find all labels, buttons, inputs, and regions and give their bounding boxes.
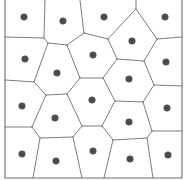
site-point — [53, 158, 60, 165]
voronoi-edge — [144, 61, 154, 85]
voronoi-edge — [108, 39, 117, 59]
site-point — [164, 105, 171, 112]
voronoi-edge — [67, 45, 80, 78]
site-point — [54, 70, 61, 77]
site-point — [127, 156, 134, 163]
voronoi-sites — [19, 14, 172, 165]
voronoi-edge — [117, 59, 144, 61]
voronoi-edge — [73, 126, 82, 137]
site-point — [129, 38, 136, 45]
site-point — [90, 52, 97, 59]
voronoi-edge — [34, 43, 48, 82]
site-point — [126, 76, 133, 83]
site-point — [165, 152, 172, 159]
voronoi-edge — [157, 37, 182, 39]
voronoi-edge — [147, 138, 153, 178]
site-point — [126, 119, 133, 126]
voronoi-edge — [40, 137, 73, 138]
voronoi-edge — [104, 140, 113, 178]
voronoi-edge — [115, 101, 143, 102]
voronoi-edge — [108, 9, 136, 39]
site-point — [101, 14, 108, 21]
voronoi-edge — [44, 0, 45, 38]
site-point — [52, 115, 59, 122]
voronoi-edge — [32, 95, 46, 127]
site-point — [89, 97, 96, 104]
voronoi-edge — [102, 126, 113, 140]
voronoi-edge — [5, 80, 34, 82]
voronoi-edge — [48, 43, 67, 45]
voronoi-edge — [147, 131, 152, 138]
voronoi-edge — [136, 9, 157, 39]
voronoi-edge — [84, 33, 108, 39]
voronoi-edge — [67, 78, 80, 94]
site-point — [19, 103, 26, 110]
voronoi-edge — [67, 33, 84, 45]
site-point — [22, 56, 29, 63]
voronoi-edge — [154, 85, 182, 86]
voronoi-diagram — [0, 0, 184, 180]
voronoi-edge — [44, 38, 48, 43]
site-point — [60, 18, 67, 25]
voronoi-edge — [67, 94, 82, 126]
voronoi-edge — [103, 78, 115, 101]
voronoi-edge — [33, 138, 40, 178]
voronoi-edge — [5, 37, 44, 38]
site-point — [162, 14, 169, 21]
site-point — [19, 151, 26, 158]
site-point — [163, 59, 170, 66]
voronoi-edge — [34, 82, 46, 95]
voronoi-edge — [80, 0, 84, 33]
voronoi-edge — [103, 59, 117, 78]
voronoi-edge — [143, 102, 152, 131]
voronoi-edge — [113, 138, 147, 140]
site-point — [90, 148, 97, 155]
voronoi-edge — [143, 85, 154, 102]
voronoi-edge — [144, 39, 157, 61]
site-point — [21, 14, 28, 21]
voronoi-edge — [102, 101, 115, 126]
voronoi-edge — [46, 94, 67, 95]
voronoi-edge — [73, 137, 82, 178]
voronoi-edge — [32, 127, 40, 138]
